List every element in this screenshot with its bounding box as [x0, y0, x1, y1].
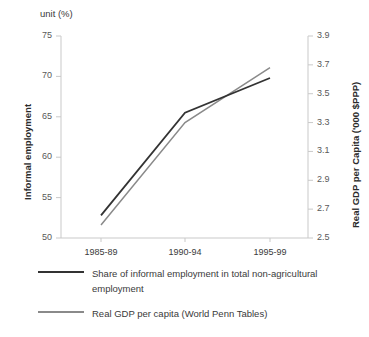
right-tick-2-9: 2.9 [317, 174, 343, 184]
right-tick-3-5: 3.5 [317, 88, 343, 98]
chart-figure: unit (%) [0, 0, 369, 337]
right-tick-3-7: 3.7 [317, 59, 343, 69]
legend-line-swatch-real-gdp [38, 306, 84, 317]
right-tick-3-9: 3.9 [317, 30, 343, 40]
x-tick-1990-94: 1990-94 [150, 247, 220, 257]
legend-item: Real GDP per capita (World Penn Tables) [38, 306, 363, 321]
right-tick-2-7: 2.7 [317, 203, 343, 213]
legend-item: Share of informal employment in total no… [38, 266, 363, 296]
series-line-real-gdp [101, 68, 270, 225]
left-axis-title: Informal employment [22, 104, 33, 200]
chart-legend: Share of informal employment in total no… [38, 266, 363, 331]
right-tick-3-3: 3.3 [317, 117, 343, 127]
x-tick-1995-99: 1995-99 [235, 247, 305, 257]
legend-line-swatch-informal-employment [38, 266, 84, 277]
legend-label-informal-employment: Share of informal employment in total no… [92, 266, 354, 296]
right-axis-title: Real GDP per Capita ('000 $PPP) [350, 82, 361, 228]
left-tick-60: 60 [30, 151, 52, 161]
left-tick-55: 55 [30, 192, 52, 202]
left-tick-75: 75 [30, 30, 52, 40]
left-tick-70: 70 [30, 70, 52, 80]
left-axis-ticks [56, 36, 61, 238]
left-tick-50: 50 [30, 232, 52, 242]
right-tick-2-5: 2.5 [317, 232, 343, 242]
legend-label-real-gdp: Real GDP per capita (World Penn Tables) [92, 306, 267, 321]
right-tick-3-1: 3.1 [317, 145, 343, 155]
left-tick-65: 65 [30, 111, 52, 121]
x-tick-1985-89: 1985-89 [66, 247, 136, 257]
right-axis-ticks [308, 36, 313, 238]
x-axis-ticks [101, 238, 270, 242]
